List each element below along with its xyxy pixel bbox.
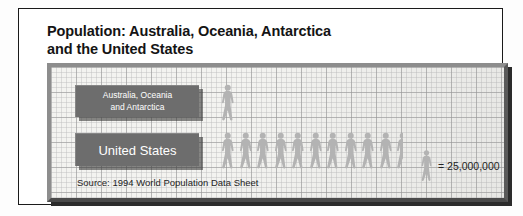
person-icon	[289, 131, 307, 171]
figure-outer-frame: Population: Australia, Oceania, Antarcti…	[18, 8, 503, 205]
title-line-1: Population: Australia, Oceania, Antarcti…	[47, 23, 331, 39]
person-icon	[219, 131, 237, 171]
series-label-line-1: Australia, Oceania	[103, 90, 172, 101]
person-icon	[219, 83, 237, 123]
person-icon	[254, 131, 272, 171]
person-icon	[342, 131, 360, 171]
legend-key: = 25,000,000	[419, 149, 500, 183]
source-note: Source: 1994 World Population Data Sheet	[77, 177, 259, 188]
person-icon	[359, 131, 377, 171]
person-icon	[237, 131, 255, 171]
person-icon	[307, 131, 325, 171]
series-label-united-states: United States	[75, 133, 199, 166]
legend-value-label: = 25,000,000	[438, 160, 500, 172]
series-label-australia-oceania-antarctica: Australia, Oceania and Antarctica	[75, 85, 199, 117]
series-label-line-2: and Antarctica	[103, 102, 172, 113]
person-icon-partial	[394, 131, 403, 171]
pictogram-row-australia-oceania-antarctica	[219, 81, 237, 123]
person-icon	[377, 131, 395, 171]
pictograph-page: Population: Australia, Oceania, Antarcti…	[0, 0, 523, 216]
series-label-text: United States	[98, 143, 176, 158]
person-icon	[419, 149, 434, 183]
title-line-2: and the United States	[47, 41, 477, 59]
chart-plate: Australia, Oceania and Antarctica United…	[47, 63, 508, 202]
page-title: Population: Australia, Oceania, Antarcti…	[47, 23, 477, 58]
person-icon	[272, 131, 290, 171]
person-icon	[324, 131, 342, 171]
pictogram-row-united-states	[219, 129, 403, 171]
